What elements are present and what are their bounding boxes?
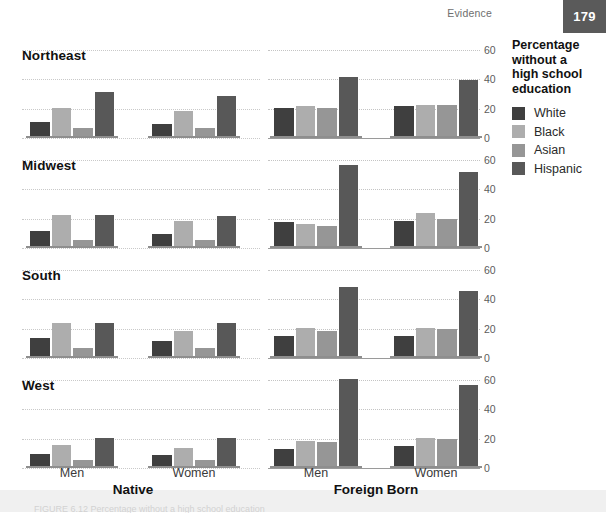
legend-title: Percentagewithout ahigh schooleducation	[512, 38, 606, 96]
bar-white	[394, 221, 414, 246]
y-axis-tick-label: 0	[484, 352, 510, 364]
bar-group	[274, 160, 358, 246]
gridline	[22, 248, 260, 249]
panel-south-foreign-born-women	[390, 270, 482, 358]
gridline	[268, 358, 480, 359]
legend-title-line: Percentage	[512, 38, 606, 53]
legend-item-label: Black	[534, 125, 565, 139]
legend-item-asian[interactable]: Asian	[512, 143, 606, 157]
bar-group	[274, 380, 358, 466]
gridline	[22, 138, 260, 139]
y-axis-tick-label: 40	[484, 73, 510, 85]
panel-baseline	[270, 246, 362, 249]
bar-hispanic	[95, 323, 115, 355]
bar-asian	[317, 226, 337, 245]
gridline	[268, 248, 480, 249]
bar-hispanic	[459, 291, 479, 356]
bar-group	[152, 160, 236, 246]
bar-group	[152, 380, 236, 466]
bar-group	[152, 50, 236, 136]
bar-black	[52, 215, 72, 246]
bar-asian	[437, 219, 457, 245]
bar-white	[394, 446, 414, 465]
bar-hispanic	[217, 96, 237, 136]
bar-asian	[195, 348, 215, 355]
y-axis-tick-label: 60	[484, 44, 510, 56]
legend-item-black[interactable]: Black	[512, 125, 606, 139]
bar-hispanic	[217, 438, 237, 466]
bar-white	[394, 336, 414, 355]
bar-group	[30, 270, 114, 356]
panel-baseline	[148, 136, 240, 139]
legend-swatch-icon	[512, 144, 525, 157]
bar-white	[152, 455, 172, 465]
bar-white	[30, 231, 50, 246]
group-label-foreign-born: Foreign Born	[270, 482, 482, 497]
bar-white	[30, 338, 50, 356]
axis-label-native-men: Men	[26, 466, 118, 480]
group-label-native: Native	[26, 482, 240, 497]
panel-northeast-foreign-born-women	[390, 50, 482, 138]
bar-asian	[73, 128, 93, 135]
bar-group	[30, 50, 114, 136]
bar-white	[152, 124, 172, 136]
axis-label-foreign-born-women: Women	[390, 466, 482, 480]
y-axis-tick-label: 20	[484, 433, 510, 445]
panel-west-native-men	[26, 380, 118, 468]
bar-black	[416, 105, 436, 136]
panel-midwest-native-men	[26, 160, 118, 248]
bar-hispanic	[217, 323, 237, 355]
bar-group	[152, 270, 236, 356]
legend-swatch-icon	[512, 107, 525, 120]
bar-hispanic	[459, 172, 479, 245]
panel-baseline	[26, 356, 118, 359]
bar-hispanic	[339, 287, 359, 356]
bar-white	[274, 449, 294, 465]
panel-south-native-men	[26, 270, 118, 358]
bar-hispanic	[95, 92, 115, 136]
y-axis-tick-label: 20	[484, 103, 510, 115]
figure-caption: FIGURE 6.12 Percentage without a high sc…	[34, 504, 265, 513]
panel-baseline	[148, 246, 240, 249]
panel-south-native-women	[148, 270, 240, 358]
panel-northeast-foreign-born-men	[270, 50, 362, 138]
panel-west-native-women	[148, 380, 240, 468]
bar-asian	[437, 105, 457, 136]
y-axis-tick-label: 20	[484, 323, 510, 335]
legend-item-white[interactable]: White	[512, 106, 606, 120]
bar-white	[274, 336, 294, 355]
bar-asian	[73, 348, 93, 355]
bar-black	[296, 224, 316, 246]
bar-white	[152, 234, 172, 246]
bar-hispanic	[459, 80, 479, 136]
legend-item-label: Hispanic	[534, 162, 582, 176]
bar-group	[30, 160, 114, 246]
legend-swatch-icon	[512, 125, 525, 138]
legend-item-label: White	[534, 106, 566, 120]
legend-swatch-icon	[512, 162, 525, 175]
bar-group	[30, 380, 114, 466]
y-axis-tick-label: 40	[484, 183, 510, 195]
bar-black	[52, 323, 72, 355]
bar-black	[296, 106, 316, 135]
gridline	[22, 358, 260, 359]
panel-west-foreign-born-women	[390, 380, 482, 468]
panel-baseline	[270, 356, 362, 359]
y-axis-tick-label: 40	[484, 293, 510, 305]
panel-west-foreign-born-men	[270, 380, 362, 468]
bar-black	[174, 331, 194, 356]
bar-hispanic	[217, 216, 237, 245]
y-axis-tick-label: 60	[484, 154, 510, 166]
bar-white	[274, 108, 294, 136]
panel-northeast-native-men	[26, 50, 118, 138]
bar-white	[30, 454, 50, 466]
bar-white	[152, 341, 172, 356]
axis-label-native-women: Women	[148, 466, 240, 480]
y-axis-tick-label: 0	[484, 462, 510, 474]
panel-baseline	[270, 136, 362, 139]
y-axis-tick-label: 0	[484, 242, 510, 254]
panel-south-foreign-born-men	[270, 270, 362, 358]
legend-item-hispanic[interactable]: Hispanic	[512, 162, 606, 176]
region-row-south: South0204060	[0, 260, 606, 370]
